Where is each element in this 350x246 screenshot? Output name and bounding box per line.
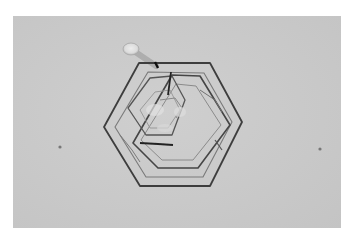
droplet: [123, 43, 139, 55]
dust-speck: [58, 145, 61, 148]
dark-segment-bottom: [140, 143, 173, 145]
ice-crystal: [0, 0, 350, 246]
dust-speck: [318, 147, 321, 150]
